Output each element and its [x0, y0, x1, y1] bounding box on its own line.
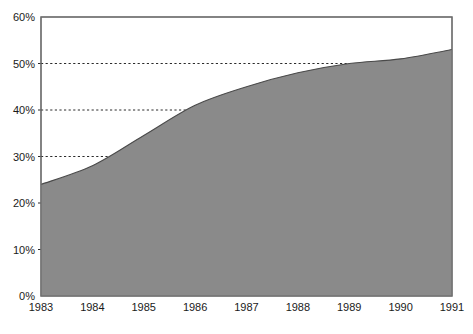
- area-chart-figure: 0%10%20%30%40%50%60% 1983198419851986198…: [0, 0, 473, 334]
- y-axis-tick-label: 60%: [13, 11, 35, 23]
- x-axis-tick-labels: 198319841985198619871988198919901991: [29, 301, 464, 313]
- y-axis-tick-label: 20%: [13, 197, 35, 209]
- y-axis-tick-label: 40%: [13, 104, 35, 116]
- x-axis-tick-label: 1988: [286, 301, 310, 313]
- x-axis-tick-label: 1983: [29, 301, 53, 313]
- x-axis-tick-label: 1984: [80, 301, 104, 313]
- x-axis-tick-label: 1986: [183, 301, 207, 313]
- x-axis-tick-label: 1991: [440, 301, 464, 313]
- x-axis-tick-label: 1987: [234, 301, 258, 313]
- x-axis-tick-label: 1985: [132, 301, 156, 313]
- x-axis-tick-label: 1990: [388, 301, 412, 313]
- chart-canvas: 0%10%20%30%40%50%60% 1983198419851986198…: [0, 0, 473, 334]
- y-axis-tick-label: 30%: [13, 151, 35, 163]
- y-axis-tick-label: 50%: [13, 58, 35, 70]
- x-axis-tick-label: 1989: [337, 301, 361, 313]
- y-axis-tick-label: 10%: [13, 244, 35, 256]
